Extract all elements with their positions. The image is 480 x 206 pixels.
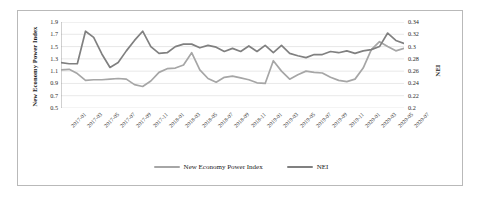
y-axis-left-tick-label: 1.5 [36,44,58,50]
y-axis-right-tick-label: 0.24 [408,80,432,86]
y-axis-right-tick-label: 0.3 [408,44,432,50]
x-axis-tick-label: 2018-03 [185,112,202,129]
chart-figure: New Economy Power Index NEI 1.91.71.51.3… [0,0,480,206]
x-axis-tick-label: 2019-03 [283,112,300,129]
y-axis-right-tick-label: 0.26 [408,68,432,74]
y-axis-right-tick-label: 0.28 [408,56,432,62]
legend-swatch [154,166,180,169]
legend-label: New Economy Power Index [184,163,263,171]
x-axis-tick-label: 2017-01 [70,112,87,129]
y-axis-right-tick-label: 0.2 [408,105,432,111]
y-axis-left-tick-label: 1.3 [36,56,58,62]
x-axis-tick-label: 2018-01 [168,112,185,129]
y-axis-right-tick-label: 0.32 [408,31,432,37]
y-axis-left-tick-label: 0.5 [36,105,58,111]
x-axis-tick-label: 2018-09 [234,112,251,129]
x-axis-tick-label: 2018-07 [217,112,234,129]
y-axis-right-title: NEI [434,41,441,101]
series-lines [61,22,404,108]
y-axis-left-tick-label: 1.9 [36,19,58,25]
x-axis-tick-label: 2019-09 [332,112,349,129]
x-axis-tick-label: 2020-07 [413,112,430,129]
y-axis-left-tick-label: 0.7 [36,93,58,99]
y-axis-left-tick-label: 1.1 [36,68,58,74]
x-axis-tick-label: 2017-09 [136,112,153,129]
legend-swatch [287,166,313,169]
y-axis-right-tick-label: 0.22 [408,93,432,99]
plot-area [61,22,404,108]
x-axis-tick-label: 2019-11 [348,112,365,129]
x-axis-tick-label: 2017-03 [87,112,104,129]
series-line [61,31,404,67]
x-axis-tick-label: 2018-11 [250,112,267,129]
y-axis-left-tick-label: 1.7 [36,31,58,37]
x-axis-tick-label: 2018-05 [201,112,218,129]
y-axis-right-tick-label: 0.34 [408,19,432,25]
x-axis-tick-label: 2019-07 [315,112,332,129]
legend-entry: NEI [287,163,329,171]
legend-label: NEI [317,163,329,171]
x-axis-tick-label: 2019-01 [266,112,283,129]
x-axis-tick-label: 2017-11 [152,112,169,129]
x-axis-tick-label: 2017-07 [119,112,136,129]
x-axis-tick-label: 2020-05 [397,112,414,129]
chart-frame: New Economy Power Index NEI 1.91.71.51.3… [17,10,463,186]
chart-legend: New Economy Power IndexNEI [18,163,464,171]
y-axis-left-tick-label: 0.9 [36,80,58,86]
x-axis-tick-label: 2017-05 [103,112,120,129]
x-axis-tick-label: 2020-01 [364,112,381,129]
legend-entry: New Economy Power Index [154,163,263,171]
x-axis-tick-label: 2020-03 [381,112,398,129]
x-axis-tick-label: 2019-05 [299,112,316,129]
